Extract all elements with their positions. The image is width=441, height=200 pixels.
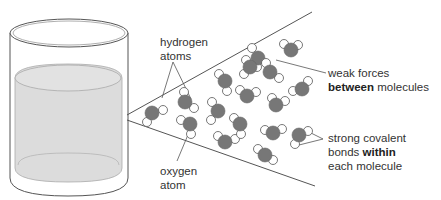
water-molecule xyxy=(289,77,313,97)
oxygen-atom xyxy=(183,117,197,131)
label-line: oxygen xyxy=(160,164,197,178)
oxygen-atom xyxy=(284,43,298,57)
oxygen-atom-label: oxygen atom xyxy=(160,164,197,192)
weak-forces-label: weak forces between molecules xyxy=(328,66,429,94)
water-molecule xyxy=(230,114,248,139)
water-molecule xyxy=(254,145,278,165)
water-molecule xyxy=(268,94,290,113)
oxygen-atom xyxy=(258,148,272,162)
hydrogen-atom xyxy=(159,106,168,115)
water-molecule xyxy=(262,59,284,83)
oxygen-atom xyxy=(218,74,232,88)
label-line: bonds within xyxy=(328,145,406,159)
water-molecule xyxy=(215,70,233,96)
bold-text: within xyxy=(363,146,396,158)
oxygen-atom xyxy=(269,98,283,112)
oxygen-atom xyxy=(266,126,280,140)
label-line: hydrogen xyxy=(160,35,208,49)
hydrogen-atom xyxy=(248,44,257,53)
water-molecule xyxy=(177,116,198,139)
water-molecule xyxy=(143,106,168,127)
label-line: each molecule xyxy=(328,159,406,173)
water-molecule xyxy=(291,127,313,149)
oxygen-atom xyxy=(292,128,306,142)
oxygen-atom xyxy=(263,65,277,79)
bold-text: between xyxy=(328,81,374,93)
oxygen-atom xyxy=(211,104,225,118)
oxygen-atom xyxy=(233,117,247,131)
oxygen-atom xyxy=(178,95,192,109)
water-molecule xyxy=(178,88,199,113)
water-molecule xyxy=(207,98,226,125)
hydrogen-atoms-label: hydrogen atoms xyxy=(160,35,208,63)
label-line: atoms xyxy=(160,49,208,63)
label-text: bonds xyxy=(328,146,363,158)
water-molecule xyxy=(280,40,303,58)
oxygen-atom xyxy=(240,89,254,103)
water-molecule xyxy=(261,125,287,141)
label-text: molecules xyxy=(374,81,429,93)
water-liquid xyxy=(15,64,122,182)
label-line: between molecules xyxy=(328,80,429,94)
label-line: atom xyxy=(160,178,197,192)
water-structure-diagram: hydrogen atoms oxygen atom weak forces b… xyxy=(0,0,441,200)
strong-bonds-label: strong covalent bonds within each molecu… xyxy=(328,131,406,173)
oxygen-atom xyxy=(295,82,309,96)
water-molecule xyxy=(214,132,240,150)
oxygen-atom xyxy=(145,106,159,120)
label-line: strong covalent xyxy=(328,131,406,145)
oxygen-atom xyxy=(243,60,257,74)
water-molecule xyxy=(236,86,261,104)
oxygen-atom xyxy=(218,135,232,149)
label-line: weak forces xyxy=(328,66,429,80)
